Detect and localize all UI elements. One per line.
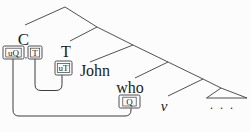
ellipsis-dots: . . . — [210, 98, 235, 112]
node-label-c: C — [18, 30, 29, 49]
branch-root-to-node2 — [65, 7, 97, 27]
ellipsis-triangle — [207, 88, 248, 98]
feature-label-t: T — [32, 48, 38, 58]
branch-node3-to-john — [90, 45, 133, 62]
branch-node3-to-node4 — [133, 45, 168, 62]
feature-label-q: Q — [126, 97, 133, 107]
syntax-tree-canvas: C T John who v . . . uQ , T uT Q — [0, 0, 250, 132]
node-label-john: John — [80, 62, 110, 79]
node-label-v: v — [161, 98, 168, 114]
feature-boxes — [3, 46, 140, 108]
feature-separator-comma: , — [25, 50, 27, 60]
branch-root-to-c — [25, 7, 65, 25]
syntax-tree-diagram: C T John who v . . . uQ , T uT Q — [0, 0, 250, 132]
node-label-t: T — [61, 43, 71, 60]
node-label-who: who — [116, 79, 144, 96]
branch-node4-to-who — [135, 62, 168, 78]
branch-node5-to-v — [168, 79, 203, 96]
branch-node5-to-triangle — [203, 79, 221, 88]
branch-node2-to-t — [70, 27, 97, 41]
feature-label-uq: uQ — [8, 48, 20, 58]
feature-label-ut: uT — [59, 63, 70, 73]
branch-node2-to-node3 — [97, 27, 133, 45]
branch-node4-to-node5 — [168, 62, 203, 79]
